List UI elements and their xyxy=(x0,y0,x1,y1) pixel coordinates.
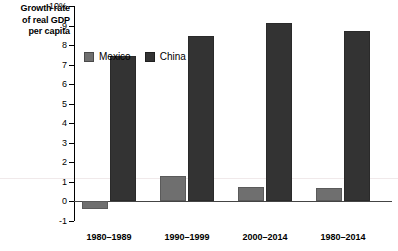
x-axis-zero-line xyxy=(74,201,392,202)
y-axis-title-line-2: per capita xyxy=(0,26,70,38)
y-axis-line xyxy=(74,6,75,221)
bar-mexico-1980–2014 xyxy=(316,188,342,202)
y-tick-mark xyxy=(69,84,74,85)
y-tick-label: 3 xyxy=(62,138,67,148)
legend-label-mexico: Mexico xyxy=(99,51,131,62)
x-category-label-1: 1990–1999 xyxy=(164,232,209,242)
y-tick-label: 1 xyxy=(62,177,67,187)
y-tick-mark xyxy=(69,143,74,144)
y-tick-label: 9 xyxy=(62,21,67,31)
y-tick-label: 5 xyxy=(62,99,67,109)
y-tick-mark xyxy=(69,26,74,27)
chart-screenshot: Growth rateof real GDPper capita 10%9876… xyxy=(0,0,398,251)
y-tick-label: 6 xyxy=(62,79,67,89)
bar-mexico-1980–1989 xyxy=(82,201,108,209)
x-category-label-2: 2000–2014 xyxy=(242,232,287,242)
y-tick-label: -1 xyxy=(59,216,67,226)
legend-item-china: China xyxy=(145,51,186,62)
legend-swatch-mexico-icon xyxy=(84,52,94,62)
y-axis-title-line-1: of real GDP xyxy=(0,15,70,27)
y-tick-mark xyxy=(69,65,74,66)
y-tick-label: 4 xyxy=(62,118,67,128)
legend-swatch-china-icon xyxy=(145,52,155,62)
y-tick-mark xyxy=(69,6,74,7)
y-tick-mark xyxy=(69,123,74,124)
y-tick-label: 10% xyxy=(49,1,67,11)
y-tick-label: 0 xyxy=(62,196,67,206)
legend-item-mexico: Mexico xyxy=(84,51,131,62)
y-tick-mark xyxy=(69,104,74,105)
bar-china-1980–2014 xyxy=(344,31,370,201)
x-category-label-0: 1980–1989 xyxy=(86,232,131,242)
y-tick-mark xyxy=(69,45,74,46)
legend-label-china: China xyxy=(160,51,186,62)
bar-china-1990–1999 xyxy=(188,36,214,201)
y-tick-mark xyxy=(69,162,74,163)
y-tick-label: 2 xyxy=(62,157,67,167)
x-category-label-3: 1980–2014 xyxy=(320,232,365,242)
bar-mexico-2000–2014 xyxy=(238,187,264,202)
bar-china-2000–2014 xyxy=(266,23,292,202)
y-tick-mark xyxy=(69,201,74,202)
y-tick-mark xyxy=(69,221,74,222)
chart-legend: Mexico China xyxy=(84,51,186,62)
bar-mexico-1990–1999 xyxy=(160,176,186,201)
y-tick-label: 7 xyxy=(62,60,67,70)
bar-china-1980–1989 xyxy=(110,56,136,202)
y-tick-mark xyxy=(69,182,74,183)
plot-area: 10%9876543210-1 1980–19891990–19992000–2… xyxy=(74,6,392,221)
y-tick-label: 8 xyxy=(62,40,67,50)
